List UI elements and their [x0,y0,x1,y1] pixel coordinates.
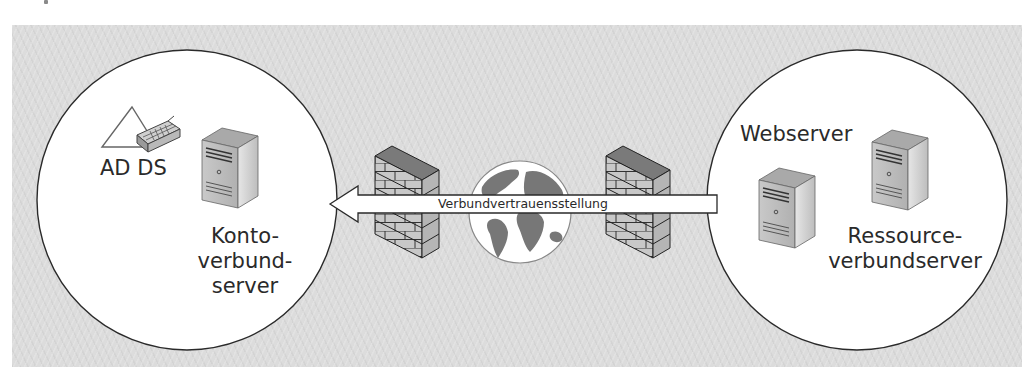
server-tower-icon [872,130,928,210]
account-federation-server-label-line-2: verbund- [180,249,310,274]
resource-federation-server-label-line-1: Ressource- [825,224,985,249]
server-tower-icon [202,128,258,208]
account-partner-zone [37,50,337,350]
adds-label: AD DS [100,156,167,181]
account-federation-server-label: Konto- verbund- server [180,224,310,299]
account-federation-server-label-line-3: server [180,274,310,299]
resource-partner-zone [707,50,1007,350]
resource-federation-server-label: Ressource- verbundserver [825,224,985,274]
resource-federation-server-label-line-2: verbundserver [825,249,985,274]
diagram-canvas [0,0,1034,384]
server-tower-icon [759,168,815,248]
trust-arrow-label: Verbundvertrauensstellung [438,197,608,211]
webserver-label: Webserver [740,122,852,147]
account-federation-server-label-line-1: Konto- [180,224,310,249]
